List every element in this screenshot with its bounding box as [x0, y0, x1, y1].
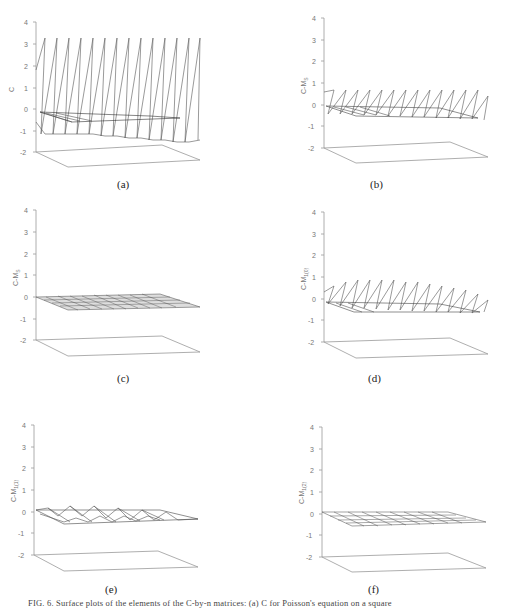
svg-text:-1: -1 — [308, 123, 314, 130]
surface-plot-f: 432 10-1-2 C-M1(2) — [250, 400, 505, 595]
svg-text:-2: -2 — [308, 145, 314, 152]
svg-text:-2: -2 — [308, 339, 314, 346]
svg-text:4: 4 — [312, 15, 316, 22]
svg-text:4: 4 — [24, 19, 28, 26]
panel-label-a: (a) — [117, 178, 129, 190]
svg-text:3: 3 — [310, 446, 314, 453]
panel-label-d: (d) — [368, 372, 381, 384]
surface-plot-e: 432 10-1-2 C-M1(1) — [0, 400, 250, 595]
z-axis-label: C-MS — [300, 77, 309, 94]
svg-text:2: 2 — [312, 58, 316, 65]
svg-text:4: 4 — [22, 422, 26, 429]
panel-label-c: (c) — [117, 372, 129, 384]
svg-text:3: 3 — [312, 37, 316, 44]
z-axis-label: C-M1(2) — [298, 482, 307, 504]
svg-text:2: 2 — [24, 251, 28, 258]
svg-text:-2: -2 — [20, 149, 26, 156]
panel-label-f: (f) — [368, 583, 379, 595]
svg-text:0: 0 — [312, 102, 316, 109]
svg-text:3: 3 — [24, 229, 28, 236]
svg-text:-2: -2 — [20, 337, 26, 344]
panel-e: 432 10-1-2 C-M1(1) (e) — [0, 400, 250, 595]
svg-text:3: 3 — [312, 231, 316, 238]
svg-text:2: 2 — [24, 63, 28, 70]
svg-text:-1: -1 — [20, 316, 26, 323]
z-axis-label: C — [8, 87, 15, 92]
svg-text:-1: -1 — [18, 530, 24, 537]
panel-a: 432 10-1-2 C (a) — [0, 0, 250, 195]
z-axis-label: C-MS — [12, 269, 21, 286]
svg-text:3: 3 — [22, 444, 26, 451]
svg-text:-1: -1 — [306, 532, 312, 539]
svg-text:1: 1 — [310, 489, 314, 496]
surface-plot-a: 432 10-1-2 C — [0, 0, 250, 195]
svg-text:-2: -2 — [18, 552, 24, 559]
svg-text:2: 2 — [312, 252, 316, 259]
svg-text:-1: -1 — [20, 128, 26, 135]
svg-text:4: 4 — [310, 424, 314, 431]
svg-text:4: 4 — [24, 207, 28, 214]
panel-c: 432 10-1-2 C-MS (c) — [0, 200, 250, 395]
svg-text:1: 1 — [24, 272, 28, 279]
z-axis-label: C-M1(0) — [300, 268, 309, 290]
figure-caption: FIG. 6. Surface plots of the elements of… — [28, 598, 498, 608]
svg-text:3: 3 — [24, 41, 28, 48]
svg-text:-1: -1 — [308, 317, 314, 324]
svg-text:0: 0 — [22, 509, 26, 516]
svg-text:-2: -2 — [306, 554, 312, 561]
svg-text:0: 0 — [310, 511, 314, 518]
surface-plot-b: 432 10-1-2 C-MS — [250, 0, 505, 195]
svg-text:4: 4 — [312, 209, 316, 216]
svg-text:1: 1 — [24, 85, 28, 92]
panel-label-b: (b) — [370, 178, 383, 190]
panel-b: 432 10-1-2 C-MS (b) — [250, 0, 500, 195]
panel-f: 432 10-1-2 C-M1(2) (f) — [250, 400, 500, 595]
svg-text:0: 0 — [24, 106, 28, 113]
svg-text:1: 1 — [22, 487, 26, 494]
svg-text:1: 1 — [312, 80, 316, 87]
z-axis-label: C-M1(1) — [10, 480, 19, 502]
svg-text:1: 1 — [312, 274, 316, 281]
surface-plot-c: 432 10-1-2 C-MS — [0, 200, 250, 395]
surface-plot-d: 432 10-1-2 C-M1(0) — [250, 200, 505, 395]
panel-d: 432 10-1-2 C-M1(0) (d) — [250, 200, 500, 395]
panel-label-e: (e) — [105, 583, 117, 595]
svg-text:0: 0 — [24, 294, 28, 301]
svg-text:2: 2 — [310, 467, 314, 474]
svg-text:0: 0 — [312, 296, 316, 303]
svg-text:2: 2 — [22, 465, 26, 472]
